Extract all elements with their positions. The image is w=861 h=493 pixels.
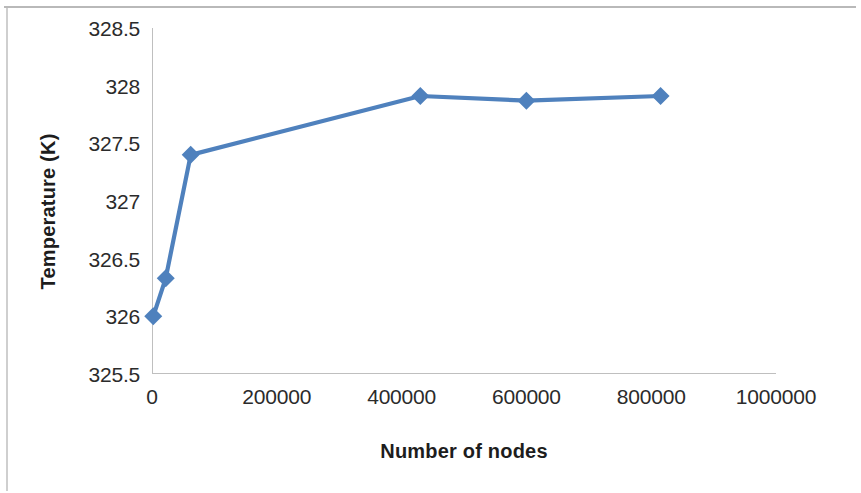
x-tick-label: 400000 (367, 386, 436, 407)
y-tick-label: 327.5 (2, 133, 152, 154)
x-tick-label: 200000 (242, 386, 311, 407)
y-tick-label: 327 (2, 191, 152, 212)
y-tick-label: 326.5 (2, 248, 152, 269)
x-tick-label: 800000 (617, 386, 686, 407)
y-tick-label: 328.5 (2, 18, 152, 39)
x-axis-title: Number of nodes (152, 440, 776, 463)
y-tick-label: 326 (2, 306, 152, 327)
plot-area (152, 28, 776, 374)
chart-figure: 328.5 328 327.5 327 326.5 326 325.5 0 20… (0, 0, 861, 493)
y-tick-label: 325.5 (2, 364, 152, 385)
x-tick-label: 600000 (492, 386, 561, 407)
x-tick-labels: 0 200000 400000 600000 800000 1000000 (0, 386, 861, 416)
x-tick-label: 1000000 (736, 386, 816, 407)
y-axis-title: Temperature (K) (37, 102, 60, 322)
y-tick-label: 328 (2, 75, 152, 96)
x-tick-label: 0 (146, 386, 157, 407)
y-tick-labels: 328.5 328 327.5 327 326.5 326 325.5 (0, 0, 152, 493)
